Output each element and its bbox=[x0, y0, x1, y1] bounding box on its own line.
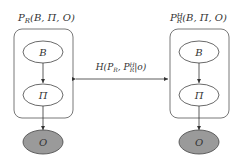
svg-text:B: B bbox=[38, 47, 46, 58]
svg-text:Π: Π bbox=[38, 90, 48, 101]
svg-text:Π: Π bbox=[194, 90, 204, 101]
right-node-o-observed: O bbox=[179, 130, 219, 154]
left-node-o-observed: O bbox=[23, 130, 63, 154]
right-model-title: PHR(B, Π, O) bbox=[169, 12, 227, 25]
left-node-pi: Π bbox=[23, 84, 63, 106]
svg-text:O: O bbox=[195, 137, 203, 148]
right-node-b: B bbox=[179, 41, 219, 63]
left-node-b: B bbox=[23, 41, 63, 63]
left-model: PR(B, Π, O) B Π O bbox=[14, 12, 75, 154]
divergence-connection: H(PR, PHR|o) bbox=[76, 61, 168, 79]
right-node-pi: Π bbox=[179, 84, 219, 106]
right-model: PHR(B, Π, O) B Π O bbox=[169, 12, 229, 154]
connection-label: H(PR, PHR|o) bbox=[95, 61, 147, 73]
svg-text:O: O bbox=[39, 137, 47, 148]
left-model-title: PR(B, Π, O) bbox=[17, 12, 75, 25]
diagram-canvas: PR(B, Π, O) B Π O H(PR, PHR|o) PHR(B, Π,… bbox=[0, 0, 243, 164]
svg-text:B: B bbox=[194, 47, 202, 58]
